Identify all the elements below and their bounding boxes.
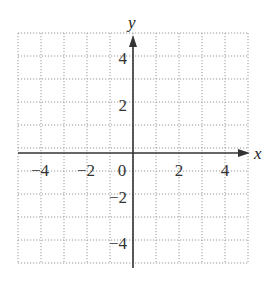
y-tick-label: −4 xyxy=(109,234,128,253)
x-tick-label: −4 xyxy=(31,161,50,180)
x-tick-label: −2 xyxy=(77,161,95,180)
x-tick-label: 0 xyxy=(118,161,127,180)
y-tick-label: 2 xyxy=(119,96,128,115)
y-tick-label: 4 xyxy=(119,49,128,68)
y-axis-arrow-icon xyxy=(129,35,137,47)
coordinate-plane: x y −4 −2 0 2 4 4 2 −2 −4 xyxy=(0,0,272,285)
x-tick-label: 2 xyxy=(175,161,184,180)
x-tick-label: 4 xyxy=(221,161,230,180)
x-axis-label: x xyxy=(253,144,262,163)
y-tick-label: −2 xyxy=(109,188,127,207)
y-axis-label: y xyxy=(126,13,136,32)
